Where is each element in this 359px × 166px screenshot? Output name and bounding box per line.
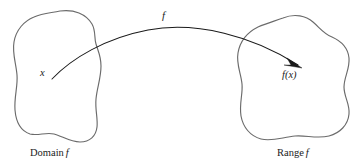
domain-element-label-x: x xyxy=(40,68,45,79)
diagram-canvas xyxy=(0,0,359,166)
range-caption: Rangef xyxy=(277,148,309,159)
domain-caption-symbol: f xyxy=(64,147,69,158)
domain-caption: Domainf xyxy=(30,148,69,159)
range-caption-word: Range xyxy=(277,147,304,158)
range-caption-symbol: f xyxy=(304,147,309,158)
range-element-label-fx: f(x) xyxy=(282,70,297,81)
domain-caption-word: Domain xyxy=(30,147,64,158)
mapping-label-f: f xyxy=(162,10,165,21)
domain-blob-shape xyxy=(13,11,101,142)
function-mapping-diagram: f x f(x) Domainf Rangef xyxy=(0,0,359,166)
arrow-head-icon xyxy=(284,58,302,68)
mapping-arrow-curve xyxy=(52,27,298,79)
